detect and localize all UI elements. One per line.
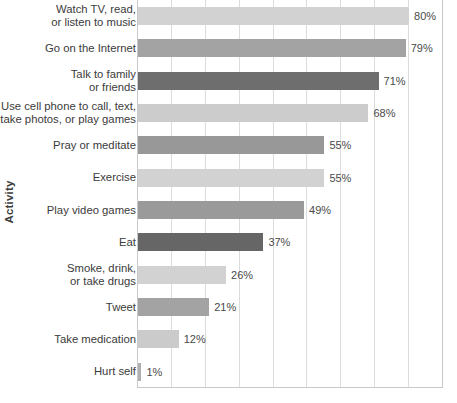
bar-track: 79% <box>138 32 443 64</box>
category-label: Watch TV, read, or listen to music <box>0 3 136 29</box>
bar-value-label: 55% <box>329 139 351 151</box>
category-label: Tweet <box>0 301 136 314</box>
bar-track: 21% <box>138 291 443 323</box>
bar-value-label: 26% <box>231 269 253 281</box>
bar[interactable] <box>138 72 379 90</box>
category-label: Talk to family or friends <box>0 68 136 94</box>
bar-track: 80% <box>138 0 443 32</box>
bar[interactable] <box>138 298 209 316</box>
bar-row: Hurt self1% <box>0 356 457 388</box>
category-label: Play video games <box>0 204 136 217</box>
bar-value-label: 55% <box>329 172 351 184</box>
bar-value-label: 1% <box>146 366 162 378</box>
bar[interactable] <box>138 104 368 122</box>
category-label: Use cell phone to call, text, take photo… <box>0 100 136 126</box>
category-label: Smoke, drink, or take drugs <box>0 262 136 288</box>
bar[interactable] <box>138 7 409 25</box>
bar-row: Go on the Internet79% <box>0 32 457 64</box>
bar-row: Tweet21% <box>0 291 457 323</box>
bar-track: 68% <box>138 97 443 129</box>
bar-rows: Watch TV, read, or listen to music80%Go … <box>0 0 457 388</box>
bar-value-label: 80% <box>414 10 436 22</box>
bar[interactable] <box>138 39 406 57</box>
category-label: Hurt self <box>0 365 136 378</box>
bar[interactable] <box>138 330 179 348</box>
category-label: Eat <box>0 236 136 249</box>
bar[interactable] <box>138 233 263 251</box>
bar-track: 71% <box>138 65 443 97</box>
category-label: Pray or meditate <box>0 139 136 152</box>
bar[interactable] <box>138 363 141 381</box>
category-label: Exercise <box>0 171 136 184</box>
bar-value-label: 49% <box>309 204 331 216</box>
bar[interactable] <box>138 266 226 284</box>
bar[interactable] <box>138 169 324 187</box>
bar-row: Take medication12% <box>0 323 457 355</box>
bar-track: 12% <box>138 323 443 355</box>
category-label: Go on the Internet <box>0 42 136 55</box>
bar-row: Exercise55% <box>0 162 457 194</box>
bar-value-label: 68% <box>373 107 395 119</box>
bar-row: Pray or meditate55% <box>0 129 457 161</box>
bar-track: 37% <box>138 226 443 258</box>
bar-chart: Activity Watch TV, read, or listen to mu… <box>0 0 457 403</box>
bar-track: 55% <box>138 162 443 194</box>
bar-track: 55% <box>138 129 443 161</box>
bar[interactable] <box>138 136 324 154</box>
bar-value-label: 79% <box>411 42 433 54</box>
bar-row: Eat37% <box>0 226 457 258</box>
bar-value-label: 71% <box>384 75 406 87</box>
bar-row: Talk to family or friends71% <box>0 65 457 97</box>
bar-value-label: 21% <box>214 301 236 313</box>
bar-track: 49% <box>138 194 443 226</box>
bar-row: Watch TV, read, or listen to music80% <box>0 0 457 32</box>
bar-value-label: 37% <box>268 236 290 248</box>
bar-row: Play video games49% <box>0 194 457 226</box>
bar-row: Use cell phone to call, text, take photo… <box>0 97 457 129</box>
bar-track: 1% <box>138 356 443 388</box>
category-label: Take medication <box>0 333 136 346</box>
bar-track: 26% <box>138 259 443 291</box>
bar-value-label: 12% <box>184 333 206 345</box>
bar-row: Smoke, drink, or take drugs26% <box>0 259 457 291</box>
bar[interactable] <box>138 201 304 219</box>
